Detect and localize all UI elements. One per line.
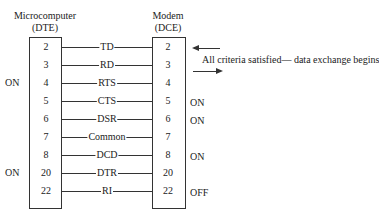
signal-label: Common — [87, 131, 126, 143]
signal-label: DSR — [96, 113, 117, 125]
signal-label: RI — [101, 185, 113, 197]
dte-title: Microcomputer — [0, 10, 90, 22]
signal-label: RTS — [97, 77, 117, 89]
dce-pin: 3 — [153, 59, 183, 71]
note-text: All criteria satisfied— data exchange be… — [202, 54, 379, 66]
dte-pin: 6 — [31, 113, 61, 125]
dce-subtitle: (DCE) — [138, 22, 198, 34]
dce-title: Modem — [138, 10, 198, 22]
dce-pin: 8 — [153, 149, 183, 161]
signal-label: DTR — [96, 167, 118, 179]
dce-pin: 4 — [153, 77, 183, 89]
dte-subtitle: (DTE) — [0, 22, 90, 34]
dte-pin: 4 — [31, 77, 61, 89]
dte-pin: 2 — [31, 41, 61, 53]
dte-state: ON — [5, 77, 19, 89]
signal-label: DCD — [95, 149, 118, 161]
dte-state: ON — [5, 167, 19, 179]
dte-pin: 7 — [31, 131, 61, 143]
dte-pin: 20 — [31, 167, 61, 179]
dte-pin: 8 — [31, 149, 61, 161]
arrow-left-head-icon — [192, 45, 199, 51]
signal-label: CTS — [97, 95, 117, 107]
dce-state: ON — [190, 151, 204, 163]
signal-label: RD — [99, 59, 115, 71]
dce-pin: 2 — [153, 41, 183, 53]
signal-label: TD — [99, 41, 114, 53]
dce-state: OFF — [190, 187, 208, 199]
dte-pin: 22 — [31, 185, 61, 197]
dce-pin: 5 — [153, 95, 183, 107]
dte-pin: 5 — [31, 95, 61, 107]
arrow-right-icon — [193, 71, 217, 72]
arrow-right-head-icon — [216, 68, 223, 74]
dce-pin: 22 — [153, 185, 183, 197]
dce-state: ON — [190, 115, 204, 127]
dce-pin: 6 — [153, 113, 183, 125]
dte-header: Microcomputer (DTE) — [0, 10, 90, 34]
dce-pin: 7 — [153, 131, 183, 143]
dce-pin: 20 — [153, 167, 183, 179]
dce-state: ON — [190, 97, 204, 109]
dte-pin: 3 — [31, 59, 61, 71]
dce-header: Modem (DCE) — [138, 10, 198, 34]
